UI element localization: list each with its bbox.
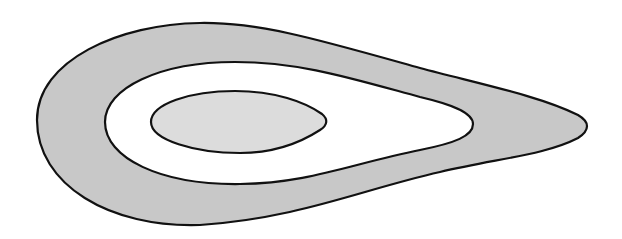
diagram-canvas bbox=[0, 0, 622, 239]
nested-contours-diagram bbox=[0, 0, 622, 239]
